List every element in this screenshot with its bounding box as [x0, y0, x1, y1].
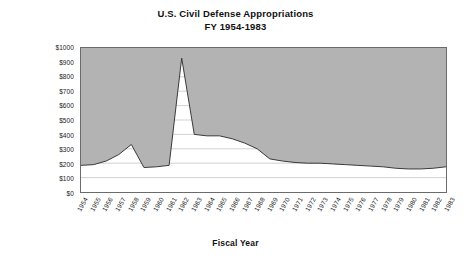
- x-axis-tick-labels: 1954195519561957195819591960196119621963…: [80, 194, 447, 234]
- y-axis-tick-label: $500: [59, 117, 74, 124]
- y-axis-tick-label: $1000: [55, 44, 74, 51]
- x-axis-tick-label-text: 1954: [76, 196, 89, 212]
- x-axis-tick-label-text: 1965: [215, 196, 228, 212]
- x-axis-tick-label-text: 1963: [189, 196, 202, 212]
- x-axis-tick-label-text: 1961: [164, 196, 177, 212]
- x-axis-tick-label-text: 1957: [114, 196, 127, 212]
- x-axis-tick-label-text: 1958: [126, 196, 139, 212]
- x-axis-tick-label-text: 1959: [139, 196, 152, 212]
- x-axis-tick-label-text: 1964: [202, 196, 215, 212]
- x-axis-tick-label-text: 1968: [253, 196, 266, 212]
- x-axis-tick-label-text: 1978: [379, 196, 392, 212]
- y-axis-tick-label: $700: [59, 87, 74, 94]
- x-axis-tick-label-text: 1983: [443, 196, 456, 212]
- y-axis-tick-label: $200: [59, 160, 74, 167]
- plot-area: [80, 47, 447, 193]
- chart-subtitle: FY 1954-1983: [0, 21, 471, 34]
- x-axis-tick-label-text: 1974: [329, 196, 342, 212]
- y-axis-tick-label: $600: [59, 102, 74, 109]
- y-axis-tick-label: $100: [59, 175, 74, 182]
- chart-figure: U.S. Civil Defense Appropriations FY 195…: [0, 0, 471, 259]
- chart-title: U.S. Civil Defense Appropriations: [0, 8, 471, 21]
- x-axis-tick-label-text: 1982: [430, 196, 443, 212]
- x-axis-tick-label-text: 1970: [278, 196, 291, 212]
- x-axis-tick-label-text: 1973: [316, 196, 329, 212]
- x-axis-tick-label-text: 1955: [88, 196, 101, 212]
- x-axis-tick-label-text: 1981: [417, 196, 430, 212]
- x-axis-tick-label-text: 1967: [240, 196, 253, 212]
- plot-svg: [81, 48, 446, 192]
- y-axis-tick-label: $800: [59, 73, 74, 80]
- series-area-fill: [81, 48, 446, 169]
- y-axis-tick-labels: $0$100$200$300$400$500$600$700$800$900$1…: [44, 47, 77, 193]
- chart-title-block: U.S. Civil Defense Appropriations FY 195…: [0, 8, 471, 33]
- x-axis-tick-label-text: 1975: [341, 196, 354, 212]
- x-axis-tick-label-text: 1969: [265, 196, 278, 212]
- x-axis-tick-label-text: 1956: [101, 196, 114, 212]
- y-axis-tick-label: $400: [59, 131, 74, 138]
- y-axis-tick-label: $900: [59, 58, 74, 65]
- y-axis-tick-label: $300: [59, 146, 74, 153]
- x-axis-tick-label-text: 1966: [227, 196, 240, 212]
- x-axis-tick-label-text: 1976: [354, 196, 367, 212]
- x-axis-tick-label-text: 1971: [291, 196, 304, 212]
- x-axis-tick-label-text: 1972: [303, 196, 316, 212]
- y-axis-label: Millions (FY 1982 Constant Dollars): [14, 47, 44, 193]
- x-axis-tick-label-text: 1962: [177, 196, 190, 212]
- x-axis-tick-label-text: 1980: [405, 196, 418, 212]
- x-axis-tick-label-text: 1979: [392, 196, 405, 212]
- x-axis-tick-label: 1983: [450, 183, 463, 199]
- x-axis-tick-label-text: 1960: [151, 196, 164, 212]
- x-axis-label: Fiscal Year: [0, 238, 471, 248]
- y-axis-tick-label: $0: [67, 190, 74, 197]
- x-axis-tick-label-text: 1977: [367, 196, 380, 212]
